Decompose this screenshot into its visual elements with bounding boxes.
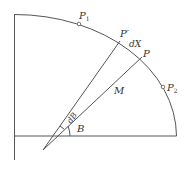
label-m: M bbox=[113, 85, 125, 96]
label-p2: P2 bbox=[166, 82, 178, 94]
label-p-prime: P′ bbox=[119, 28, 130, 39]
point-p2-marker bbox=[161, 85, 165, 89]
label-dx: dX bbox=[129, 39, 142, 49]
label-b: B bbox=[76, 123, 84, 134]
db-tick bbox=[60, 126, 64, 129]
angle-b-arc bbox=[68, 126, 70, 136]
label-p1: P1 bbox=[78, 10, 90, 22]
label-p: P bbox=[142, 48, 150, 59]
point-p1-marker bbox=[77, 22, 81, 26]
diagram-canvas: P1 P′ dX P P2 M dB B bbox=[0, 0, 187, 170]
